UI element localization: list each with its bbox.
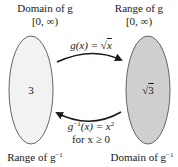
inverse-func-sup: −1 [73,120,80,128]
inverse-func-rest: (x) = x [81,120,111,132]
forward-map-arrow [57,53,121,62]
inverse-func-power: 2 [111,120,115,128]
domain-inverse-sup: −1 [166,151,173,159]
range-of-g-inverse-label: Range of g−1 [0,151,70,163]
forward-func-text: g(x) = [70,39,101,51]
inverse-map-condition: for x ≥ 0 [56,133,126,145]
range-element-radicand: 3 [148,84,154,96]
range-inverse-text: Range of g [7,151,55,163]
forward-map-label: g(x) = √x [58,39,124,51]
forward-radicand: x [107,39,112,51]
domain-inverse-text: Domain of g [110,151,166,163]
range-element-value: √3 [133,84,163,96]
domain-of-g-inverse-label: Domain of g−1 [106,151,178,163]
inverse-map-label: g−1(x) = x2 [56,120,126,132]
domain-element-value: 3 [20,84,42,96]
range-inverse-sup: −1 [55,151,62,159]
